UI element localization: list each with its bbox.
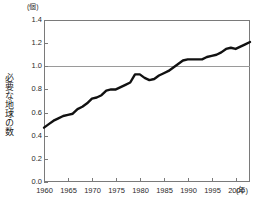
x-axis-tick-label: 1960 xyxy=(33,186,57,195)
x-axis-tick-label: 1970 xyxy=(81,186,105,195)
x-axis-tick-label: 1980 xyxy=(129,186,153,195)
x-axis-tick-label: 1985 xyxy=(153,186,177,195)
x-axis-tick-labels: 196019651970197519801985199019952000 xyxy=(0,186,264,200)
plot-frame xyxy=(45,21,250,182)
data-series-line xyxy=(44,42,250,128)
chart-figure: (個) 必要な地球の数 1.41.21.00.80.60.40.20.0 196… xyxy=(0,0,264,206)
x-axis-unit-label: (年) xyxy=(236,186,248,195)
x-axis-tick-label: 1975 xyxy=(105,186,129,195)
x-axis-tick-label: 1995 xyxy=(201,186,225,195)
x-axis-tick-label: 1965 xyxy=(57,186,81,195)
x-axis-tick-label: 1990 xyxy=(177,186,201,195)
plot-area xyxy=(0,0,264,206)
